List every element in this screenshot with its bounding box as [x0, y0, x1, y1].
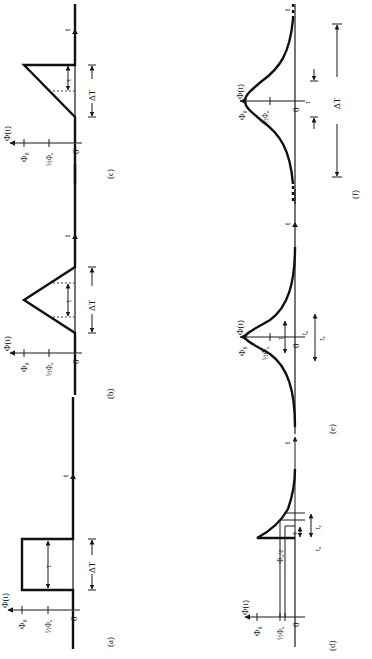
- t-label: t: [282, 8, 292, 11]
- tau-e-label: τₑ: [313, 525, 322, 530]
- phi-axis-label: Φ(t): [235, 84, 245, 99]
- tick-zero: 0: [69, 616, 79, 621]
- t0-label: t₀: [313, 546, 322, 551]
- tick-phi0: Φ₀: [252, 626, 262, 636]
- tick-half-phi0: ½Φ₀: [261, 346, 270, 360]
- panel-e: [240, 189, 315, 434]
- t-label: t: [62, 28, 72, 31]
- delta-t-label: ΔT: [87, 561, 97, 573]
- caption-d: (d): [327, 641, 337, 652]
- tau-label: τ: [63, 299, 73, 303]
- triangular-pulse-curve: [24, 164, 75, 353]
- tick-phi0: Φ₀: [237, 110, 247, 120]
- caption-e: (e): [327, 424, 337, 434]
- exponential-decay-curve: [257, 469, 295, 538]
- t-label: t: [282, 222, 292, 225]
- tick-phi0: Φ₀: [19, 152, 29, 162]
- caption-f: (f): [350, 190, 360, 199]
- tick-half-phi0: ½Φ₀: [44, 619, 53, 633]
- tick-phi0: Φ₀: [17, 619, 27, 629]
- caption-c: (c): [105, 169, 115, 179]
- tick-zero: 0: [71, 359, 81, 364]
- phi-axis-label: Φ(t): [0, 593, 10, 608]
- tick-zero: 0: [71, 149, 81, 154]
- t0-label: t₀: [300, 330, 309, 335]
- tick-half-phi0: ½Φ₀: [45, 362, 54, 376]
- delta-t-label: ΔT: [87, 299, 97, 311]
- tau-label: τ: [303, 101, 312, 104]
- tau-label: τ: [63, 78, 73, 82]
- tau-label: τ: [276, 337, 285, 340]
- tick-half-phi0: ½Φ₀: [45, 152, 54, 166]
- caption-b: (b): [105, 389, 115, 400]
- tau-label: τ: [43, 564, 53, 568]
- phi-axis-label: Φ(t): [240, 600, 250, 615]
- tick-zero: 0: [291, 107, 301, 112]
- panel-d: [245, 437, 311, 647]
- tick-phi0: Φ₀: [237, 346, 247, 356]
- delta-t-label: ΔT: [332, 97, 342, 109]
- t-label: t: [60, 474, 70, 477]
- pulse-shapes-figure: Φ(t) Φ₀ ½Φ₀ 0 t τ ΔT (a) Φ(t) Φ₀ ½Φ₀ 0 t…: [0, 0, 372, 659]
- tick-zero: 0: [291, 622, 301, 627]
- panel-b: [10, 164, 96, 395]
- panel-a: [8, 397, 96, 649]
- panel-f: [240, 4, 342, 204]
- caption-a: (a): [105, 637, 115, 647]
- tick-zero: 0: [291, 343, 301, 348]
- phi-axis-label: Φ(t): [235, 320, 245, 335]
- t-label: t: [282, 441, 292, 444]
- tick-phi0: Φ₀: [19, 362, 29, 372]
- t-label: t: [62, 234, 72, 237]
- sawtooth-pulse-curve: [24, 4, 75, 143]
- phi-axis-label: Φ(t): [2, 336, 12, 351]
- tau-label: τ: [290, 532, 299, 535]
- tick-half-phi0: ½Φ₀: [261, 110, 270, 124]
- delta-t-label: ΔT: [87, 89, 97, 101]
- tau-e-label: τₑ: [317, 336, 326, 341]
- phi-axis-label: Φ(t): [2, 126, 12, 141]
- tick-phi0-over-e: Φ₀/e: [276, 549, 285, 563]
- tick-half-phi0: ½Φ₀: [276, 626, 285, 640]
